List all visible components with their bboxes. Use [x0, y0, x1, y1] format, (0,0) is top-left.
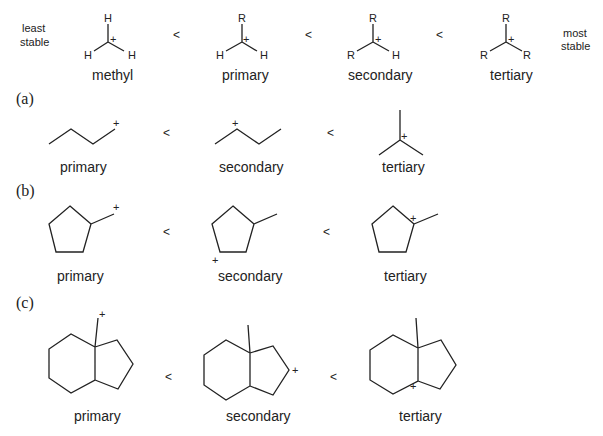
structure-name: secondary	[226, 408, 291, 424]
charge-plus: +	[212, 254, 218, 266]
carbocation-stability-diagram: least stable H H H + methyl < R H H + pr…	[0, 0, 603, 436]
structure-name: primary	[57, 268, 104, 284]
charge-plus: +	[401, 130, 407, 142]
atom-right: H	[128, 49, 136, 61]
section-b: (b) + primary < + secondary < + tertiary	[16, 182, 438, 284]
section-label: (c)	[16, 294, 34, 312]
charge-plus: +	[508, 33, 514, 45]
charge-plus: +	[292, 364, 298, 376]
structure-name: secondary	[218, 268, 283, 284]
less-than: <	[173, 28, 180, 42]
bonds	[49, 206, 114, 252]
bonds	[94, 24, 124, 51]
structure-name: tertiary	[399, 408, 442, 424]
charge-plus: +	[410, 380, 416, 392]
atom-left: R	[347, 49, 355, 61]
charge-plus: +	[113, 117, 119, 129]
charge-plus: +	[410, 212, 416, 224]
atom-right: H	[260, 49, 268, 61]
structure-secondary: + secondary	[212, 206, 283, 284]
bonds	[490, 24, 522, 51]
less-than: <	[163, 126, 170, 140]
less-than: <	[330, 370, 337, 384]
secondary-cation: R R H + secondary	[347, 12, 413, 83]
bonds	[204, 325, 289, 400]
atom-top: H	[104, 12, 112, 24]
less-than: <	[323, 225, 330, 239]
bonds	[215, 129, 281, 144]
structure-name: primary	[74, 408, 121, 424]
atom-top: R	[238, 12, 246, 24]
atom-right: H	[392, 49, 400, 61]
charge-plus: +	[99, 308, 105, 320]
section-a: (a) + primary < + secondary < + tertiary	[16, 90, 425, 175]
structure-name: tertiary	[384, 268, 427, 284]
structure-primary: + primary	[49, 308, 133, 424]
least-stable-label-line2: stable	[20, 36, 49, 48]
least-stable-label-line1: least	[22, 22, 45, 34]
structure-name: primary	[60, 159, 107, 175]
bonds	[212, 206, 277, 252]
cation-name: primary	[222, 67, 269, 83]
charge-plus: +	[375, 33, 381, 45]
atom-top: R	[369, 12, 377, 24]
structure-tertiary: + tertiary	[372, 206, 438, 284]
primary-cation: R H H + primary	[216, 12, 269, 83]
cation-name: tertiary	[490, 67, 533, 83]
less-than: <	[305, 28, 312, 42]
structure-secondary: + secondary	[204, 325, 298, 424]
bonds	[372, 206, 438, 252]
top-row: least stable H H H + methyl < R H H + pr…	[20, 12, 590, 83]
bonds	[226, 24, 257, 51]
atom-top: R	[502, 12, 510, 24]
charge-plus: +	[110, 33, 116, 45]
structure-secondary: + secondary	[215, 117, 284, 175]
less-than: <	[163, 225, 170, 239]
structure-primary: + primary	[49, 117, 119, 175]
charge-plus: +	[232, 117, 238, 129]
section-label: (a)	[16, 90, 34, 108]
section-label: (b)	[16, 182, 35, 200]
atom-left: H	[216, 49, 224, 61]
structure-name: secondary	[219, 159, 284, 175]
section-c: (c) + primary < + secondary < + tertiary	[16, 294, 456, 424]
less-than: <	[165, 370, 172, 384]
most-stable-label-line2: stable	[561, 40, 590, 52]
less-than: <	[436, 28, 443, 42]
bonds	[49, 129, 115, 144]
atom-right: R	[523, 49, 531, 61]
bonds	[49, 318, 133, 393]
tertiary-cation: R R R + tertiary	[480, 12, 533, 83]
methyl-cation: H H H + methyl	[84, 12, 136, 83]
structure-primary: + primary	[49, 201, 119, 284]
atom-left: R	[480, 49, 488, 61]
structure-tertiary: + tertiary	[379, 110, 425, 175]
atom-left: H	[84, 49, 92, 61]
charge-plus: +	[243, 33, 249, 45]
cation-name: secondary	[348, 67, 413, 83]
most-stable-label-line1: most	[563, 27, 587, 39]
structure-tertiary: + tertiary	[370, 318, 456, 424]
less-than: <	[327, 126, 334, 140]
bonds	[357, 24, 389, 51]
charge-plus: +	[113, 201, 119, 213]
structure-name: tertiary	[382, 159, 425, 175]
cation-name: methyl	[92, 67, 133, 83]
